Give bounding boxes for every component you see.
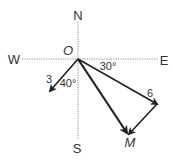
vector-6-magnitude-label: 6 bbox=[147, 87, 153, 99]
vector-3-angle-label: 40° bbox=[60, 77, 77, 89]
vector-3-translated-arrow bbox=[129, 104, 157, 134]
vector-3-magnitude-label: 3 bbox=[46, 73, 52, 85]
vector-6-arrow bbox=[78, 59, 157, 104]
vector-diagram: N S W E O 3 40° 30° 6 M bbox=[0, 0, 173, 163]
origin-label: O bbox=[63, 43, 73, 58]
west-label: W bbox=[8, 52, 21, 67]
east-label: E bbox=[160, 53, 169, 68]
m-label: M bbox=[125, 135, 136, 150]
vector-6-angle-label: 30° bbox=[100, 60, 117, 72]
south-label: S bbox=[73, 141, 82, 156]
north-label: N bbox=[73, 8, 82, 23]
